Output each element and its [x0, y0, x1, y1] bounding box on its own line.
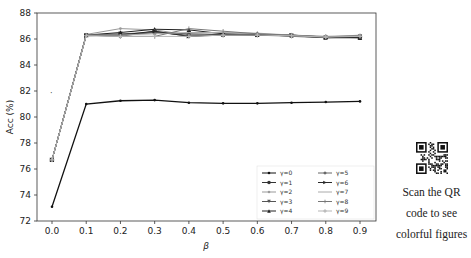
svg-text:γ=1: γ=1: [280, 179, 293, 187]
annotation-dot: ·: [50, 89, 53, 98]
svg-text:84: 84: [20, 60, 32, 70]
svg-text:0.0: 0.0: [45, 226, 60, 236]
svg-text:82: 82: [20, 86, 31, 96]
svg-text:0.3: 0.3: [148, 226, 162, 236]
svg-text:0.8: 0.8: [319, 226, 334, 236]
svg-text:γ=3: γ=3: [280, 198, 293, 206]
svg-text:88: 88: [20, 8, 32, 18]
x-axis-label: β: [202, 241, 209, 251]
qr-code-icon: [416, 142, 448, 174]
svg-text:γ=7: γ=7: [336, 188, 349, 196]
y-axis-label: Acc (%): [5, 100, 15, 134]
svg-text:γ=2: γ=2: [280, 188, 293, 196]
svg-text:γ=8: γ=8: [336, 198, 349, 206]
qr-side-panel: Scan the QR code to see colorful figures: [392, 142, 471, 245]
svg-text:78: 78: [20, 138, 32, 148]
svg-text:0.7: 0.7: [284, 226, 298, 236]
svg-text:0.9: 0.9: [353, 226, 368, 236]
y-axis-ticks: 727476788082848688: [20, 8, 37, 226]
svg-text:γ=9: γ=9: [336, 207, 349, 215]
svg-text:0.1: 0.1: [79, 226, 93, 236]
svg-text:0.5: 0.5: [216, 226, 230, 236]
svg-text:74: 74: [20, 190, 32, 200]
caption-line-3: colorful figures: [392, 224, 471, 245]
line-chart: 727476788082848688 0.00.10.20.30.40.50.6…: [0, 0, 390, 258]
svg-text:76: 76: [20, 164, 32, 174]
x-axis-ticks: 0.00.10.20.30.40.50.60.70.80.9: [45, 221, 368, 236]
svg-text:γ=4: γ=4: [280, 207, 293, 215]
svg-text:0.4: 0.4: [182, 226, 197, 236]
svg-text:86: 86: [20, 34, 32, 44]
svg-text:γ=6: γ=6: [336, 179, 349, 187]
svg-text:γ=0: γ=0: [280, 169, 293, 177]
svg-text:0.6: 0.6: [250, 226, 265, 236]
svg-text:γ=5: γ=5: [336, 169, 349, 177]
caption-line-2: code to see: [392, 203, 471, 224]
svg-text:0.2: 0.2: [113, 226, 127, 236]
svg-text:72: 72: [20, 216, 31, 226]
caption-line-1: Scan the QR: [392, 182, 471, 203]
legend: γ=0γ=1γ=2γ=3γ=4γ=5γ=6γ=7γ=8γ=9: [257, 166, 374, 219]
svg-text:80: 80: [20, 112, 32, 122]
